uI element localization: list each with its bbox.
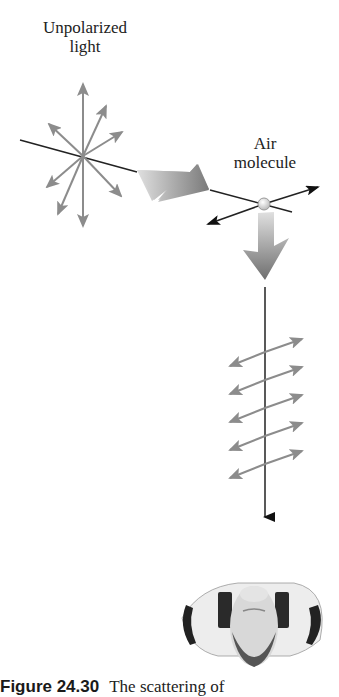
caption-text: The scattering of: [109, 677, 224, 696]
figure-caption: Figure 24.30The scattering of: [0, 677, 224, 697]
air-molecule-icon: [258, 198, 270, 210]
scattered-light-arrow-icon: [243, 212, 289, 280]
observer-person-icon: [182, 583, 322, 667]
polarized-light-arrows: [230, 339, 302, 478]
figure-number: Figure 24.30: [0, 677, 99, 696]
unpolarized-light-star-icon: [20, 84, 137, 226]
